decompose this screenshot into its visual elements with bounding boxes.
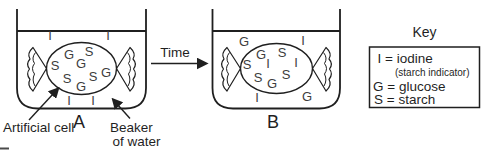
cell-a-tied-end-left — [28, 48, 47, 92]
artificial-cell-pointer — [29, 94, 54, 121]
iodine-particle: I — [255, 90, 259, 105]
key-title: Key — [412, 24, 436, 40]
beaker-b-group: G I I G G S S I I S S G B — [213, 9, 341, 132]
time-label: Time — [160, 45, 190, 60]
iodine-particle: I — [48, 28, 52, 43]
osmosis-diffusion-diagram: I I I I G S S G G S S G A Time G I I G G… — [0, 0, 485, 154]
beaker-of-water-pointer — [118, 105, 131, 119]
starch-particle: S — [282, 67, 291, 82]
starch-particle: S — [254, 70, 263, 85]
beaker-a-label: A — [73, 112, 85, 132]
beaker-b-label: B — [267, 112, 279, 132]
beaker-of-water-label-line2: of water — [113, 134, 162, 149]
beaker-of-water-label-line1: Beaker — [110, 120, 153, 135]
iodine-particle: I — [91, 93, 95, 108]
key-entry-iodine: I = iodine — [378, 51, 433, 66]
iodine-particle: I — [106, 28, 110, 43]
glucose-particle: G — [302, 89, 312, 104]
starch-particle: S — [89, 69, 98, 84]
glucose-particle: G — [64, 47, 74, 62]
beaker-a-group: I I I I G S S G G S S G A — [17, 9, 146, 132]
cell-b-tied-end-left — [222, 48, 241, 92]
iodine-particle: I — [301, 33, 305, 48]
iodine-particle: I — [294, 55, 298, 70]
starch-particle: S — [278, 45, 287, 60]
starch-particle: S — [63, 71, 72, 86]
glucose-particle: G — [101, 65, 111, 80]
starch-particle: S — [51, 58, 60, 73]
key-group: Key I = iodine (starch indicator) G = gl… — [370, 24, 480, 108]
glucose-particle: G — [256, 47, 266, 62]
iodine-particle: I — [67, 93, 71, 108]
key-entry-starch: S = starch — [374, 92, 435, 107]
glucose-particle: G — [76, 56, 86, 71]
key-note-starch-indicator: (starch indicator) — [395, 67, 469, 78]
iodine-particle: I — [266, 56, 270, 71]
artificial-cell-label: Artificial cell — [3, 120, 74, 135]
time-arrow-group: Time — [151, 45, 199, 64]
glucose-particle: G — [76, 79, 86, 94]
starch-particle: S — [243, 57, 252, 72]
glucose-particle: G — [267, 76, 277, 91]
cell-b-tied-end-right — [313, 48, 332, 92]
glucose-particle: G — [239, 34, 249, 49]
cell-a-tied-end-right — [117, 48, 136, 92]
